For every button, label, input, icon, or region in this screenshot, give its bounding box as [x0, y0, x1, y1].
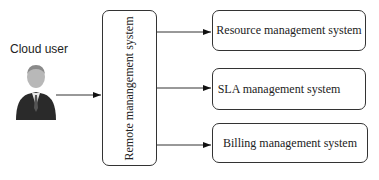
remote-management-system-box: Remote manangement system	[102, 10, 157, 166]
remote-management-system-label: Remote manangement system	[122, 16, 137, 160]
sla-management-system-label: SLA management system	[218, 82, 341, 97]
billing-management-system-label: Billing management system	[223, 136, 357, 151]
resource-management-system-box: Resource management system	[212, 10, 366, 51]
resource-management-system-label: Resource management system	[216, 23, 361, 38]
billing-management-system-box: Billing management system	[212, 123, 368, 163]
sla-management-system-box: SLA management system	[212, 68, 366, 110]
